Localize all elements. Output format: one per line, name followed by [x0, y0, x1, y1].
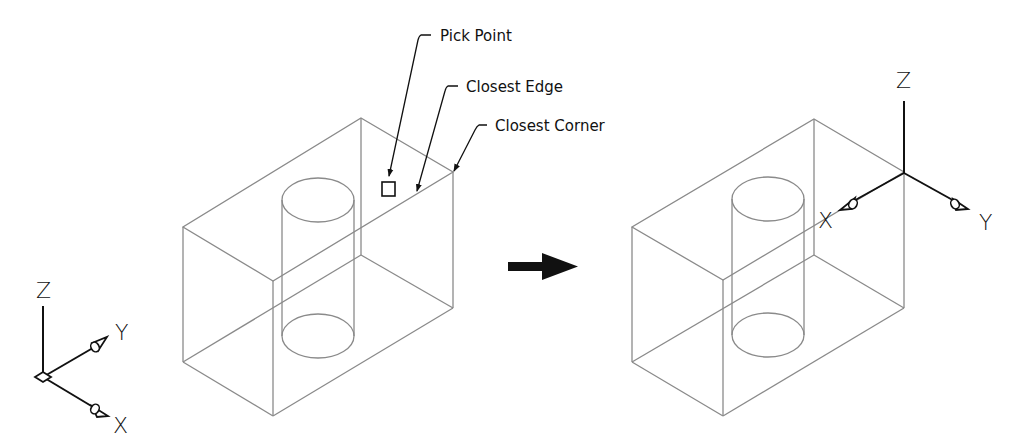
x-axis-label: X — [818, 208, 833, 233]
z-axis-label: Z — [896, 68, 911, 93]
z-axis-label: Z — [36, 278, 51, 303]
left-box-wireframe — [183, 118, 453, 416]
y-axis-line — [904, 173, 958, 203]
y-axis-label: Y — [115, 320, 128, 345]
y-cone-icon — [949, 198, 968, 211]
right-ucs-icon: Z X Y — [818, 68, 992, 235]
callout-closest-corner: Closest Corner — [454, 117, 606, 171]
y-axis-line — [43, 345, 98, 377]
right-arrow-icon — [508, 253, 578, 280]
box-top-face — [183, 118, 453, 281]
x-axis-line — [850, 173, 904, 203]
callout-label: Closest Edge — [466, 78, 563, 96]
x-axis-label: X — [113, 413, 128, 438]
x-cone-icon — [840, 198, 859, 211]
right-box-wireframe — [632, 119, 904, 416]
callout-label: Pick Point — [440, 27, 512, 45]
left-cylinder — [282, 178, 354, 358]
x-axis-line — [43, 377, 98, 410]
y-cone-icon — [89, 337, 107, 353]
pick-point-box-icon — [382, 182, 395, 196]
callout-label: Closest Corner — [495, 117, 606, 135]
x-cone-icon — [89, 403, 108, 417]
callout-pick-point: Pick Point — [389, 27, 512, 176]
box-top-face — [632, 119, 904, 280]
y-axis-label: Y — [979, 210, 992, 235]
cropped-caption — [0, 440, 1016, 448]
left-ucs-icon: Z Y X — [35, 278, 128, 438]
ucs-diagram: Z Y X Pick Point Closest Edge Closest Co… — [0, 0, 1016, 448]
